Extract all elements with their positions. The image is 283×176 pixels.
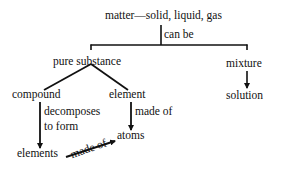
edge-label-can-be: can be xyxy=(164,28,194,41)
edge-label-decomposes: decomposes xyxy=(44,105,100,118)
node-mixture: mixture xyxy=(226,57,262,70)
node-matter: matter—solid, liquid, gas xyxy=(105,9,222,22)
edge-label-element-made-of: made of xyxy=(135,105,172,118)
node-compound: compound xyxy=(12,88,61,101)
edge-label-to-form: to form xyxy=(44,120,78,133)
node-elements: elements xyxy=(17,147,58,160)
node-element: element xyxy=(109,88,145,101)
node-pure-substance: pure substance xyxy=(53,55,121,68)
node-solution: solution xyxy=(226,89,263,102)
node-atoms: atoms xyxy=(117,129,144,142)
